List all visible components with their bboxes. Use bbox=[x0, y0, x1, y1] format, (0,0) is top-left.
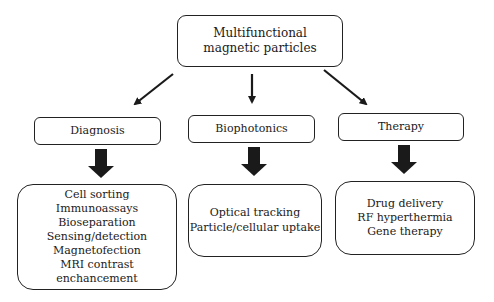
root-line-2: magnetic particles bbox=[203, 41, 316, 56]
list-item: Bioseparation bbox=[58, 216, 135, 230]
therapy-applications: Drug delivery RF hyperthermia Gene thera… bbox=[335, 181, 475, 255]
category-diagnosis: Diagnosis bbox=[34, 117, 161, 145]
category-label: Diagnosis bbox=[70, 124, 124, 138]
list-item: MRI contrast enchancement bbox=[18, 258, 176, 286]
root-line-1: Multifunctional bbox=[213, 26, 307, 41]
list-item: Immunoassays bbox=[56, 202, 138, 216]
arrow-to-therapy bbox=[324, 70, 366, 104]
list-item: Magnetofection bbox=[53, 244, 141, 258]
biophotonics-applications: Optical tracking Particle/cellular uptak… bbox=[188, 184, 322, 257]
list-item: Gene therapy bbox=[367, 225, 442, 239]
category-therapy: Therapy bbox=[338, 113, 464, 141]
diagnosis-applications: Cell sorting Immunoassays Bioseparation … bbox=[17, 184, 177, 290]
category-biophotonics: Biophotonics bbox=[188, 115, 315, 143]
list-item: Particle/cellular uptake bbox=[190, 221, 320, 235]
block-arrow-diagnosis bbox=[88, 149, 114, 178]
list-item: Cell sorting bbox=[64, 188, 129, 202]
arrow-to-diagnosis bbox=[135, 74, 173, 104]
block-arrow-therapy bbox=[391, 145, 417, 174]
list-item: Drug delivery bbox=[367, 197, 443, 211]
block-arrow-biophotonics bbox=[241, 147, 267, 176]
category-label: Biophotonics bbox=[215, 122, 287, 136]
list-item: Sensing/detection bbox=[47, 230, 147, 244]
category-label: Therapy bbox=[378, 120, 424, 134]
list-item: RF hyperthermia bbox=[357, 211, 452, 225]
list-item: Optical tracking bbox=[210, 206, 300, 220]
root-node: Multifunctional magnetic particles bbox=[177, 15, 343, 67]
